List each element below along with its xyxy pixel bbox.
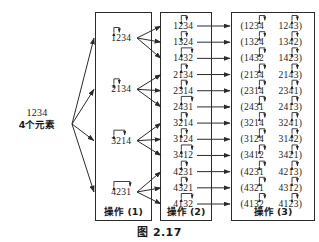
- op2-permutation: 4321: [173, 183, 193, 193]
- arrow-source-to-op1: [72, 124, 94, 192]
- permutation-tree-figure: 1234 4个元素 操作 (1) 操作 (2) 操作 (3) 123421343…: [0, 0, 319, 242]
- op1-permutation: 1234: [111, 33, 131, 43]
- op3-permutation-left: (3124: [241, 134, 265, 144]
- op3-permutation-right: 4123): [279, 199, 303, 209]
- op1-permutation: 3214: [111, 136, 131, 146]
- op3-permutation-left: (2314: [241, 86, 265, 96]
- op3-permutation-right: 4312): [279, 183, 303, 193]
- op2-permutation: 1432: [173, 53, 193, 63]
- op3-permutation-right: 3142): [279, 134, 303, 144]
- op3-permutation-left: (1432: [241, 53, 265, 63]
- op3-permutation-left: (4231: [241, 167, 265, 177]
- figure-caption: 图 2.17: [0, 223, 319, 239]
- op2-permutation: 4132: [173, 199, 193, 209]
- op3-permutation-left: (2431: [241, 102, 265, 112]
- op3-permutation-right: 1243): [279, 21, 303, 31]
- op2-permutation: 1324: [173, 37, 193, 47]
- op3-permutation-left: (2134: [241, 70, 265, 80]
- op3-permutation-left: (3214: [241, 118, 265, 128]
- op2-permutation: 3124: [173, 134, 193, 144]
- op3-permutation-right: 2341): [279, 86, 303, 96]
- op2-permutation: 2431: [173, 102, 193, 112]
- op3-permutation-left: (1234: [241, 21, 265, 31]
- op1-permutation: 2134: [111, 84, 131, 94]
- arrow-source-to-op1: [72, 89, 94, 124]
- op2-permutation: 1234: [173, 21, 193, 31]
- op3-permutation-right: 3241): [279, 118, 303, 128]
- op2-permutation: 3214: [173, 118, 193, 128]
- op2-permutation: 3412: [173, 150, 193, 160]
- arrows-source-to-op1: [72, 38, 94, 192]
- source-permutation: 1234: [4, 107, 70, 119]
- op3-permutation-left: (1324: [241, 37, 265, 47]
- op2-permutation: 2314: [173, 86, 193, 96]
- op2-permutation: 2134: [173, 70, 193, 80]
- op3-permutation-right: 4213): [279, 167, 303, 177]
- arrow-source-to-op1: [72, 38, 94, 124]
- op3-permutation-right: 3421): [279, 150, 303, 160]
- op3-permutation-right: 1423): [279, 53, 303, 63]
- arrow-source-to-op1: [72, 124, 94, 141]
- op3-permutation-right: 1342): [279, 37, 303, 47]
- op3-permutation-left: (4132: [241, 199, 265, 209]
- op3-permutation-left: (3412: [241, 150, 265, 160]
- op3-permutation-right: 2143): [279, 70, 303, 80]
- op3-permutation-right: 2413): [279, 102, 303, 112]
- op1-permutation: 4231: [111, 187, 131, 197]
- op2-permutation: 4231: [173, 167, 193, 177]
- source-node: 1234 4个元素: [4, 107, 70, 130]
- op3-permutation-left: (4321: [241, 183, 265, 193]
- operation-1-label: 操作 (1): [96, 204, 151, 218]
- source-element-count: 4个元素: [4, 119, 70, 130]
